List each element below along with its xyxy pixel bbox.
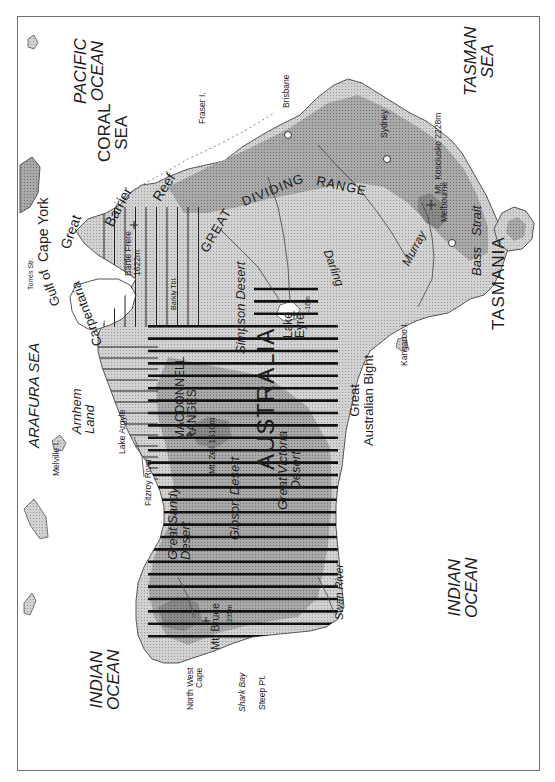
label-shark-bay: Shark Bay [238,673,247,712]
label-coral-sea: CORAL SEA [96,103,130,162]
label-fitzroy-river: Fitzroy River [144,458,153,506]
label-cape: Cape [195,668,204,710]
label-bass: Bass [470,247,483,276]
label-mt-bruce: Mt. Bruce [210,603,221,650]
label-torres-strait: Torres Str. [27,258,34,290]
island-fragment [24,593,36,615]
label-ocean-2: OCEAN [105,650,122,710]
island-top-left [28,35,38,49]
label-sea: SEA [113,103,130,162]
label-ocean: OCEAN [89,38,106,104]
timor-fragment [24,499,48,539]
brisbane-marker[interactable] [285,132,292,139]
label-melville-island: Melville I. [52,441,61,476]
label-bight-great: Great [348,355,362,446]
label-gibson-desert: Gibson Desert [228,457,241,540]
label-tasman-sea: TASMAN SEA [462,26,496,96]
label-tasman: TASMAN [462,26,479,96]
label-sydney[interactable]: Sydney [380,110,389,138]
label-kangaroo-island: Kangaroo I. [400,322,409,366]
label-pacific: PACIFIC [72,38,89,104]
label-tasmania: TASMANIA [490,236,507,330]
label-land: Land [83,388,96,434]
label-simpson-desert: Simpson Desert [234,262,247,354]
label-indian-2: INDIAN [446,558,463,618]
label-lake-argyle: Lake Argyle [118,410,127,454]
label-ocean-3: OCEAN [463,558,480,618]
label-barkly-tableland: Barkly Tbl. [170,277,177,310]
label-ranges: RANGES [186,357,198,440]
label-bartle-frere-height: 1622m [133,231,142,276]
label-indian-ocean-south: INDIAN OCEAN [446,558,480,618]
melbourne-marker[interactable] [449,240,456,247]
label-fraser-island: Fraser I. [198,92,207,124]
label-lake-eyre-depth: -16m [304,296,311,312]
label-arafura-sea: ARAFURA SEA [26,343,41,448]
label-melbourne[interactable]: Melbourne [440,182,449,222]
label-north-west-cape: North West Cape [186,668,203,710]
sydney-marker[interactable] [384,156,391,163]
label-lake-eyre: Lake Eyre [282,312,306,338]
label-steep-point: Steep Pt. [258,675,267,710]
label-great-victoria-desert: Great Victoria Desert [276,431,302,510]
label-desert-2: Desert [289,431,302,510]
label-arnhem-land: Arnhem Land [70,388,96,434]
label-macdonnell-ranges: MACDONNELL RANGES [174,357,198,440]
label-indian: INDIAN [88,650,105,710]
label-great-australian-bight: Great Australian Bight [348,355,377,446]
label-desert: Desert [179,487,192,560]
label-mt-zeil: Mt. Zeil 1510m [208,418,217,474]
label-strait: Strait [470,206,483,236]
label-coral: CORAL [96,103,113,162]
label-bight-australian: Australian Bight [362,355,376,446]
label-swan-river: Swan River [334,564,345,620]
label-eyre: Eyre [294,312,306,338]
label-great-sandy-desert: Great Sandy Desert [166,487,192,560]
label-pacific-ocean: PACIFIC OCEAN [72,38,106,104]
label-bartle-frere: Bartle Frere 1622m [124,231,141,276]
label-indian-ocean-west: INDIAN OCEAN [88,650,122,710]
label-mt-bruce-height: 1235m [226,605,233,626]
label-sea-2: SEA [479,26,496,96]
label-brisbane[interactable]: Brisbane [282,74,291,108]
label-cape-york: Cape York [36,197,50,262]
